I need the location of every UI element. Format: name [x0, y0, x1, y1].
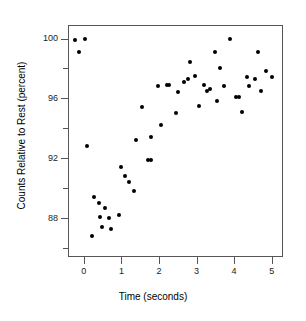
data-point	[132, 189, 136, 193]
data-point	[222, 84, 226, 88]
x-tick-label: 1	[111, 267, 131, 276]
x-tick-mark	[159, 257, 160, 264]
data-point	[270, 75, 274, 79]
data-point	[140, 105, 144, 109]
data-point	[117, 213, 121, 217]
data-point	[213, 50, 217, 54]
data-point	[77, 50, 81, 54]
data-point	[149, 135, 153, 139]
data-point	[237, 95, 241, 99]
y-tick-label: 96	[48, 94, 58, 103]
data-point	[97, 201, 101, 205]
x-tick-label: 2	[149, 267, 169, 276]
data-point	[256, 50, 260, 54]
data-point	[85, 144, 89, 148]
plot-data-area	[68, 25, 283, 257]
data-point	[100, 225, 104, 229]
x-axis-title: Time (seconds)	[0, 291, 306, 302]
y-tick-label: 88	[48, 214, 58, 223]
data-point	[240, 110, 244, 114]
data-point	[73, 38, 77, 42]
data-point	[123, 174, 127, 178]
x-tick-mark	[197, 257, 198, 264]
data-point	[182, 80, 186, 84]
data-point	[109, 227, 113, 231]
data-point	[202, 83, 206, 87]
x-tick-mark	[272, 257, 273, 264]
data-point	[197, 104, 201, 108]
data-point	[92, 195, 96, 199]
data-point	[149, 158, 153, 162]
data-point	[247, 84, 251, 88]
data-point	[228, 37, 232, 41]
data-point	[83, 37, 87, 41]
x-tick-label: 5	[262, 267, 282, 276]
data-point	[218, 66, 222, 70]
data-point	[188, 60, 192, 64]
data-point	[174, 111, 178, 115]
data-point	[98, 215, 102, 219]
data-point	[245, 75, 249, 79]
data-point	[159, 123, 163, 127]
data-point	[186, 77, 190, 81]
data-point	[264, 69, 268, 73]
data-point	[253, 77, 257, 81]
data-point	[208, 87, 212, 91]
data-point	[156, 84, 160, 88]
y-tick-mark	[61, 98, 68, 99]
y-tick-mark	[61, 158, 68, 159]
data-point	[90, 234, 94, 238]
x-tick-label: 3	[187, 267, 207, 276]
data-point	[119, 165, 123, 169]
x-tick-mark	[234, 257, 235, 264]
x-tick-label: 4	[224, 267, 244, 276]
data-point	[127, 180, 131, 184]
y-axis-title: Counts Relative to Rest (percent)	[16, 16, 27, 256]
data-point	[215, 99, 219, 103]
y-tick-mark	[61, 39, 68, 40]
y-tick-mark	[61, 218, 68, 219]
data-point	[103, 206, 107, 210]
scatter-plot-figure: 889296100 012345 Time (seconds) Counts R…	[0, 0, 306, 321]
data-point	[167, 83, 171, 87]
y-tick-label: 100	[43, 34, 58, 43]
data-point	[176, 90, 180, 94]
x-tick-label: 0	[74, 267, 94, 276]
x-tick-mark	[121, 257, 122, 264]
data-point	[134, 138, 138, 142]
data-point	[193, 74, 197, 78]
x-tick-mark	[84, 257, 85, 264]
data-point	[107, 216, 111, 220]
data-point	[259, 89, 263, 93]
y-tick-label: 92	[48, 154, 58, 163]
